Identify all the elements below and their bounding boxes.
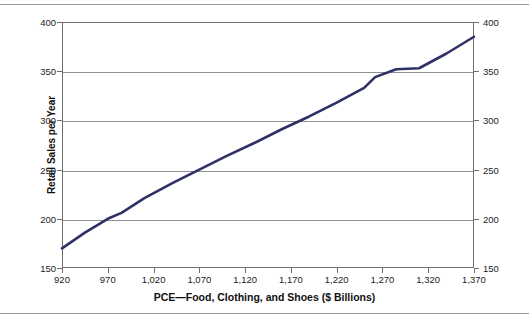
y-axis-tick-right: [474, 219, 479, 220]
x-axis-tick-label: 1,370: [462, 274, 486, 285]
y-axis-tick-label-left: 150: [40, 263, 56, 274]
y-axis-tick-right: [474, 22, 479, 23]
x-axis-tick: [154, 268, 155, 273]
y-axis-tick-label-right: 150: [483, 263, 499, 274]
x-axis-tick-label: 1,320: [416, 274, 440, 285]
y-axis-tick-label-left: 400: [40, 17, 56, 28]
y-axis-tick-label-right: 300: [483, 115, 499, 126]
y-axis-tick-label-right: 250: [483, 164, 499, 175]
figure-bottom-rule: [0, 313, 529, 314]
x-axis-tick-label: 1,070: [187, 274, 211, 285]
x-axis-tick-label: 920: [54, 274, 70, 285]
y-axis-tick-left: [57, 71, 62, 72]
y-axis-tick-left: [57, 219, 62, 220]
x-axis-tick: [245, 268, 246, 273]
y-axis-tick-label-right: 200: [483, 213, 499, 224]
x-axis-tick: [199, 268, 200, 273]
x-axis-tick: [108, 268, 109, 273]
y-axis-tick-left: [57, 22, 62, 23]
gridline-horizontal: [63, 72, 473, 73]
y-axis-tick-left: [57, 170, 62, 171]
x-axis-title: PCE—Food, Clothing, and Shoes ($ Billion…: [0, 291, 529, 303]
y-axis-tick-right: [474, 170, 479, 171]
gridline-horizontal: [63, 171, 473, 172]
x-axis-tick: [382, 268, 383, 273]
x-axis-tick-label: 1,120: [233, 274, 257, 285]
gridline-horizontal: [63, 121, 473, 122]
y-axis-tick-right: [474, 268, 479, 269]
y-axis-tick-left: [57, 120, 62, 121]
x-axis-tick-label: 1,170: [279, 274, 303, 285]
x-axis-tick: [62, 268, 63, 273]
gridline-horizontal: [63, 220, 473, 221]
x-axis-tick: [337, 268, 338, 273]
x-axis-tick-label: 1,020: [142, 274, 166, 285]
x-axis-tick-label: 970: [100, 274, 116, 285]
y-axis-tick-right: [474, 120, 479, 121]
x-axis-tick-label: 1,220: [325, 274, 349, 285]
plot-area: [62, 22, 474, 268]
y-axis-tick-label-left: 200: [40, 213, 56, 224]
y-axis-tick-label-left: 350: [40, 66, 56, 77]
y-axis-title: Retail Sales per Year: [46, 96, 57, 194]
y-axis-tick-label-left: 250: [40, 164, 56, 175]
figure-top-rule: [0, 4, 529, 5]
x-axis-tick: [291, 268, 292, 273]
x-axis-tick: [428, 268, 429, 273]
y-axis-tick-right: [474, 71, 479, 72]
y-axis-tick-label-right: 400: [483, 17, 499, 28]
x-axis-tick-label: 1,270: [371, 274, 395, 285]
y-axis-tick-left: [57, 268, 62, 269]
y-axis-tick-label-left: 300: [40, 115, 56, 126]
y-axis-tick-label-right: 350: [483, 66, 499, 77]
